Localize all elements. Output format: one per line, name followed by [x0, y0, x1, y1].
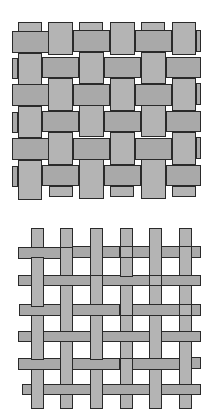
warp-strip [120, 394, 133, 409]
warp-strip [79, 52, 104, 84]
warp-strip [179, 394, 192, 409]
warp-strip [110, 78, 135, 111]
warp-strip [149, 228, 162, 276]
warp-strip [48, 132, 73, 165]
warp-strip [179, 315, 192, 332]
plain-weave-panel [0, 209, 207, 418]
weft-strip [135, 30, 172, 52]
warp-strip [60, 341, 73, 385]
weft-strip [42, 165, 79, 186]
warp-strip [120, 315, 133, 332]
weft-strip [166, 57, 201, 78]
warp-strip [18, 106, 42, 138]
weft-strip [135, 84, 172, 106]
warp-strip [141, 105, 166, 137]
warp-strip [172, 22, 196, 55]
warp-strip [31, 315, 44, 360]
warp-strip [90, 369, 103, 409]
weft-strip [166, 165, 201, 186]
warp-strip [179, 285, 192, 305]
warp-strip [149, 285, 162, 305]
warp-strip [149, 369, 162, 409]
warp-strip [18, 160, 42, 200]
warp-strip [172, 186, 196, 197]
warp-strip [179, 228, 192, 247]
weft-strip [73, 138, 110, 160]
weft-strip [104, 165, 141, 186]
weft-strip [18, 331, 32, 342]
weft-strip [73, 84, 110, 106]
warp-strip [172, 78, 196, 111]
warp-strip [49, 186, 73, 197]
warp-strip [60, 285, 73, 332]
warp-strip [141, 52, 166, 84]
warp-strip [31, 369, 44, 409]
warp-strip [60, 394, 73, 409]
weft-strip [42, 57, 79, 78]
warp-strip [79, 105, 104, 137]
warp-strip [31, 257, 44, 307]
weft-strip [166, 111, 201, 132]
basket-weave-panel [0, 0, 207, 209]
weft-strip [12, 138, 49, 160]
warp-strip [79, 159, 104, 199]
weft-strip [135, 138, 172, 160]
warp-strip [141, 159, 166, 199]
warp-strip [120, 228, 133, 247]
weft-strip [196, 137, 201, 159]
warp-strip [110, 186, 134, 197]
warp-strip [48, 78, 73, 111]
warp-strip [172, 132, 196, 165]
weft-strip [161, 331, 201, 342]
warp-strip [18, 53, 42, 85]
warp-strip [48, 22, 73, 55]
weft-strip [12, 31, 49, 53]
weft-strip [196, 30, 201, 52]
warp-strip [60, 228, 73, 248]
weft-strip [104, 57, 141, 78]
weft-strip [104, 111, 141, 132]
weft-strip [12, 84, 49, 106]
weft-strip [191, 357, 201, 369]
warp-strip [120, 341, 133, 359]
warp-strip [90, 315, 103, 360]
weft-strip [191, 246, 201, 258]
weft-strip [18, 275, 32, 286]
warp-strip [110, 132, 135, 165]
weft-strip [132, 304, 180, 316]
weft-strip [73, 30, 110, 52]
warp-strip [110, 22, 135, 55]
weft-strip [191, 304, 201, 316]
weft-strip [196, 83, 201, 105]
warp-strip [120, 257, 133, 277]
warp-strip [90, 228, 103, 276]
weft-strip [42, 111, 79, 132]
